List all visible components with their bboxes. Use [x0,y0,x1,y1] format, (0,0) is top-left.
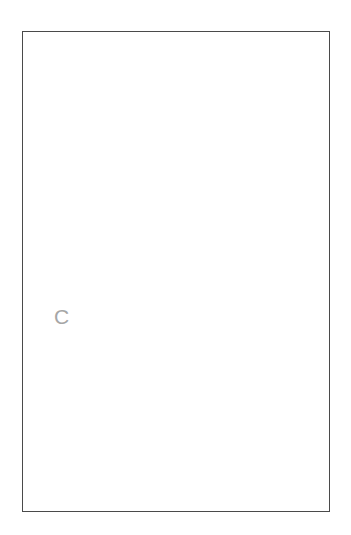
figure-frame-border [22,31,330,512]
panel-letter-label: C [54,305,69,329]
figure-panel: C [0,0,351,535]
